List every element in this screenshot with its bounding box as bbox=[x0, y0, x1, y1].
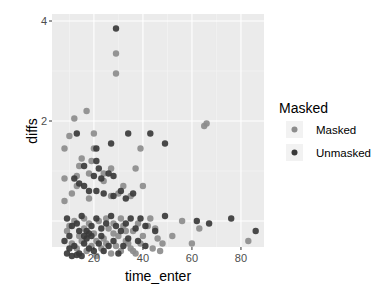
data-point bbox=[130, 190, 136, 196]
data-point bbox=[61, 175, 67, 181]
legend: Masked MaskedUnmasked bbox=[279, 100, 371, 161]
data-point bbox=[123, 220, 129, 226]
data-point bbox=[98, 233, 104, 239]
data-point bbox=[93, 215, 99, 221]
data-point bbox=[137, 145, 143, 151]
data-point bbox=[61, 198, 67, 204]
plot-panel bbox=[52, 14, 264, 247]
legend-title: Masked bbox=[279, 100, 328, 116]
data-point bbox=[66, 233, 72, 239]
data-point bbox=[96, 165, 102, 171]
data-point bbox=[125, 235, 131, 241]
data-point bbox=[101, 248, 107, 254]
y-tick-label: 2 bbox=[41, 115, 47, 127]
data-point bbox=[118, 215, 124, 221]
data-point bbox=[69, 190, 75, 196]
data-point bbox=[130, 248, 136, 254]
y-axis-title: diffs bbox=[24, 118, 40, 143]
data-point bbox=[113, 70, 119, 76]
data-point bbox=[125, 130, 131, 136]
data-point bbox=[132, 225, 138, 231]
data-point bbox=[81, 183, 87, 189]
data-point bbox=[101, 190, 107, 196]
data-point bbox=[74, 220, 80, 226]
x-axis-title: time_enter bbox=[125, 268, 191, 284]
data-point bbox=[154, 235, 160, 241]
data-point bbox=[118, 228, 124, 234]
data-point bbox=[120, 243, 126, 249]
data-point bbox=[61, 145, 67, 151]
data-point bbox=[162, 213, 168, 219]
data-point bbox=[150, 245, 156, 251]
data-point bbox=[105, 170, 111, 176]
data-point bbox=[64, 215, 70, 221]
data-point bbox=[81, 163, 87, 169]
data-point bbox=[91, 130, 97, 136]
data-point bbox=[253, 228, 259, 234]
data-point bbox=[96, 240, 102, 246]
data-point bbox=[152, 228, 158, 234]
data-point bbox=[137, 215, 143, 221]
data-point bbox=[113, 223, 119, 229]
masked-legend-dot-icon bbox=[292, 127, 298, 133]
data-point bbox=[245, 238, 251, 244]
x-tick-label: 40 bbox=[137, 252, 149, 264]
data-point bbox=[140, 183, 146, 189]
legend-label-masked: Masked bbox=[316, 124, 356, 136]
data-point bbox=[74, 130, 80, 136]
data-point bbox=[189, 240, 195, 246]
data-point bbox=[71, 175, 77, 181]
y-axis-ticks: 24 bbox=[41, 15, 52, 127]
data-point bbox=[108, 140, 114, 146]
data-point bbox=[228, 215, 234, 221]
data-point bbox=[123, 195, 129, 201]
data-point bbox=[86, 188, 92, 194]
data-point bbox=[203, 120, 209, 126]
data-point bbox=[98, 225, 104, 231]
data-point bbox=[113, 50, 119, 56]
x-tick-label: 20 bbox=[88, 252, 100, 264]
data-point bbox=[86, 230, 92, 236]
data-point bbox=[93, 158, 99, 164]
data-point bbox=[66, 133, 72, 139]
data-point bbox=[88, 223, 94, 229]
data-point bbox=[194, 218, 200, 224]
data-point bbox=[98, 175, 104, 181]
data-point bbox=[179, 218, 185, 224]
data-point bbox=[76, 228, 82, 234]
scatter-chart: 20406080 24 time_enter diffs Masked Mask… bbox=[0, 0, 390, 298]
data-point bbox=[110, 238, 116, 244]
data-point bbox=[142, 223, 148, 229]
legend-label-unmasked: Unmasked bbox=[316, 147, 371, 159]
data-point bbox=[169, 233, 175, 239]
data-point bbox=[86, 195, 92, 201]
data-point bbox=[135, 238, 141, 244]
data-point bbox=[159, 240, 165, 246]
data-point bbox=[206, 220, 212, 226]
x-tick-label: 80 bbox=[235, 252, 247, 264]
legend-entries: MaskedUnmasked bbox=[286, 121, 371, 161]
data-point bbox=[118, 188, 124, 194]
data-point bbox=[110, 193, 116, 199]
data-point bbox=[79, 213, 85, 219]
data-point bbox=[110, 230, 116, 236]
x-tick-label: 60 bbox=[186, 252, 198, 264]
data-point bbox=[147, 130, 153, 136]
data-point bbox=[162, 140, 168, 146]
data-point bbox=[113, 25, 119, 31]
y-tick-label: 4 bbox=[41, 15, 47, 27]
unmasked-legend-dot-icon bbox=[292, 150, 298, 156]
data-point bbox=[71, 115, 77, 121]
data-point bbox=[61, 238, 67, 244]
data-point bbox=[108, 250, 114, 256]
data-point bbox=[105, 243, 111, 249]
data-point bbox=[79, 253, 85, 259]
data-point bbox=[132, 165, 138, 171]
data-point bbox=[140, 233, 146, 239]
data-point bbox=[115, 250, 121, 256]
data-point bbox=[79, 155, 85, 161]
data-point bbox=[157, 248, 163, 254]
data-point bbox=[147, 215, 153, 221]
data-point bbox=[71, 243, 77, 249]
data-point bbox=[103, 220, 109, 226]
